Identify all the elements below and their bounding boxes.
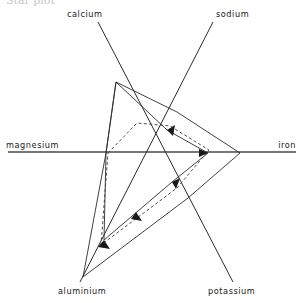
- arrow-aluminium-inner-icon: [98, 240, 110, 249]
- arrow-potassium-inner-icon: [172, 178, 180, 189]
- axis-label-iron: iron: [278, 140, 296, 150]
- star-plot-figure: Star plot calcium sodium magnesium iron …: [0, 0, 302, 303]
- arrow-diagonal-mid-icon: [131, 212, 142, 221]
- axis-label-aluminium: aluminium: [58, 286, 106, 296]
- series-polygon-sample-2: [104, 82, 208, 240]
- axis-label-potassium: potassium: [208, 286, 255, 296]
- axis-lines-group: [8, 22, 296, 282]
- series-polygon-sample-3: [101, 123, 209, 245]
- axis-label-magnesium: magnesium: [6, 140, 59, 150]
- axis-label-calcium: calcium: [67, 9, 103, 19]
- star-plot-canvas: calcium sodium magnesium iron aluminium …: [0, 0, 302, 303]
- axis-label-sodium: sodium: [216, 9, 249, 19]
